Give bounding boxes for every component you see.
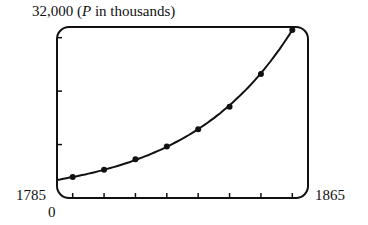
- data-points: [70, 27, 296, 180]
- data-point: [101, 167, 107, 173]
- chart-plot-area: [0, 0, 368, 225]
- data-point: [132, 156, 138, 162]
- data-point: [195, 126, 201, 132]
- data-point: [70, 174, 76, 180]
- axis-ticks: [57, 38, 292, 198]
- fitted-curve: [57, 30, 292, 180]
- data-point: [227, 104, 233, 110]
- data-point: [289, 27, 295, 33]
- data-point: [258, 71, 264, 77]
- data-point: [164, 143, 170, 149]
